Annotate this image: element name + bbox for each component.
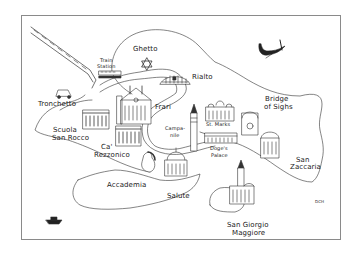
boat-icon [46, 217, 62, 224]
bridge-of-sighs-icon [242, 112, 258, 135]
label-st-marks: St. Marks [206, 122, 230, 128]
woman-figure-icon [142, 152, 155, 172]
label-frari: Frari [155, 104, 171, 112]
label-rialto: Rialto [192, 74, 213, 82]
label-bridge-2: of Sighs [264, 104, 293, 112]
label-salute: Salute [167, 193, 190, 201]
label-ghetto: Ghetto [133, 46, 158, 54]
label-ca-2: Rezzonico [94, 152, 130, 160]
san-zaccaria-church-icon [261, 132, 279, 158]
car-icon [56, 90, 71, 99]
san-giorgio-church-icon [230, 160, 254, 204]
label-train-station-2: Station [97, 64, 115, 70]
ca-rezzonico-building-icon [116, 126, 141, 146]
label-giorgio-2: Maggiore [232, 230, 265, 238]
label-zaccaria-2: Zaccaria [290, 164, 321, 172]
label-scuola-2: San Rocco [52, 135, 89, 143]
gondola-icon [259, 40, 285, 58]
salute-church-icon [165, 148, 187, 176]
artist-signature: DCH [315, 198, 324, 206]
label-campanile-2: nile [170, 133, 179, 139]
label-doges-2: Palace [211, 153, 228, 159]
train-icon [99, 71, 121, 78]
campanile-tower-icon [191, 104, 197, 151]
doges-palace-icon [205, 133, 237, 143]
railway-causeway-icon [31, 27, 96, 88]
star-of-david-icon [142, 58, 152, 70]
label-accademia: Accademia [107, 182, 146, 190]
frari-church-icon [117, 86, 151, 124]
st-marks-basilica-icon [206, 101, 234, 121]
scuola-building-icon [83, 110, 109, 129]
label-doges-1: Doge's [210, 146, 228, 152]
label-campanile-1: Campa- [165, 126, 185, 132]
label-tronchetto: Tronchetto [38, 101, 76, 109]
